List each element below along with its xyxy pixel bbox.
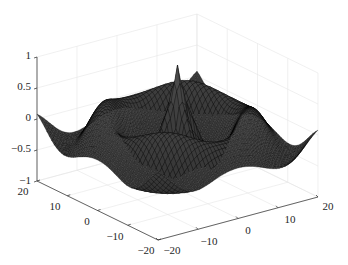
z-tick-label: 0 — [26, 111, 32, 123]
x-tick-label: 0 — [245, 224, 251, 236]
y-axis-ticks: 20 10 0 −10 −20 — [18, 185, 156, 256]
mesh-surface — [37, 65, 318, 194]
y-tick-label: 0 — [84, 215, 90, 227]
z-axis-ticks: −1 −0.5 0 0.5 1 — [11, 49, 31, 186]
surface-plot: −1 −0.5 0 0.5 1 20 10 0 −10 −20 −20 −10 … — [0, 0, 348, 265]
z-tick-label: 0.5 — [17, 80, 31, 92]
y-tick-label: −20 — [137, 244, 155, 256]
y-tick-label: −10 — [106, 230, 124, 242]
y-tick-label: 20 — [18, 185, 30, 197]
x-tick-label: 10 — [285, 213, 297, 225]
x-tick-label: 20 — [323, 200, 335, 212]
z-tick-label: −0.5 — [11, 142, 31, 154]
x-axis-ticks: −20 −10 0 10 20 — [163, 200, 334, 256]
z-tick-label: 1 — [26, 49, 32, 61]
x-tick-label: −20 — [163, 244, 181, 256]
y-tick-label: 10 — [50, 200, 62, 212]
x-tick-label: −10 — [200, 235, 218, 247]
